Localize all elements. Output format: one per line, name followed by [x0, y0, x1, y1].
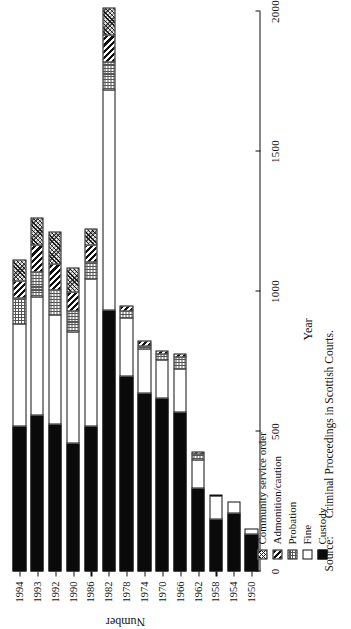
category-label-1958: 1958 — [210, 581, 221, 602]
bar-segment-cust — [227, 512, 240, 571]
category-label-1994: 1994 — [13, 581, 24, 602]
category-label-1954: 1954 — [228, 581, 239, 602]
chart-legend: Community service orderAdmonition/cautio… — [255, 432, 330, 559]
legend-swatch-dotted-grid — [287, 549, 297, 559]
bar-segment-adm — [119, 305, 132, 311]
bar-segment-prob — [84, 261, 97, 279]
category-label-1990: 1990 — [67, 581, 78, 602]
bar-segment-fine — [30, 296, 43, 415]
bar-segment-prob — [173, 356, 186, 369]
category-tick — [19, 571, 20, 576]
legend-item-fine: Fine — [300, 432, 314, 559]
bar-1966[interactable] — [173, 354, 186, 571]
bar-1978[interactable] — [119, 306, 132, 571]
bar-segment-fine — [209, 495, 222, 519]
category-tick — [37, 571, 38, 576]
category-tick — [198, 571, 199, 576]
bar-segment-adm — [84, 244, 97, 262]
legend-label: Community service order — [255, 432, 269, 544]
bar-segment-fine — [66, 331, 79, 443]
category-tick — [233, 571, 234, 576]
category-label-1966: 1966 — [174, 581, 185, 602]
bar-segment-fine — [84, 278, 97, 426]
bar-segment-cust — [191, 487, 204, 571]
bar-segment-fine — [48, 314, 61, 423]
bar-segment-cso — [102, 7, 115, 35]
value-tick — [255, 430, 260, 431]
bar-segment-adm — [102, 34, 115, 62]
bar-segment-adm — [191, 451, 204, 454]
bar-segment-cust — [48, 423, 61, 571]
bar-segment-fine — [173, 368, 186, 413]
bar-segment-fine — [137, 348, 150, 393]
bar-segment-adm — [48, 263, 61, 290]
bar-segment-prob — [209, 494, 222, 496]
bar-1990[interactable] — [66, 268, 79, 571]
bar-segment-prob — [102, 61, 115, 90]
bar-segment-cust — [12, 425, 25, 571]
bar-segment-cust — [84, 425, 97, 571]
bar-segment-fine — [119, 317, 132, 376]
bar-1986[interactable] — [84, 229, 97, 571]
bar-segment-cust — [173, 411, 186, 571]
bar-1962[interactable] — [191, 452, 204, 571]
bar-segment-cust — [102, 309, 115, 571]
bar-segment-prob — [30, 271, 43, 298]
bar-1992[interactable] — [48, 232, 61, 571]
bar-segment-fine — [102, 89, 115, 310]
bar-segment-cust — [209, 518, 222, 571]
legend-label: Probation — [285, 501, 299, 544]
bar-segment-fine — [227, 501, 240, 514]
value-tick-label: 1000 — [268, 280, 280, 303]
y-axis-title: Number — [105, 614, 144, 629]
bar-1970[interactable] — [155, 351, 168, 571]
category-label-1993: 1993 — [31, 581, 42, 602]
category-tick — [126, 571, 127, 576]
category-label-1992: 1992 — [49, 581, 60, 602]
bar-segment-prob — [66, 310, 79, 332]
bar-segment-adm — [155, 350, 168, 354]
bar-1993[interactable] — [30, 218, 43, 571]
value-tick — [255, 290, 260, 291]
bar-segment-cso — [84, 228, 97, 245]
category-label-1970: 1970 — [156, 581, 167, 602]
bar-segment-adm — [137, 340, 150, 346]
legend-label: Admonition/caution — [270, 455, 284, 544]
bar-segment-adm — [173, 353, 186, 357]
x-axis-title: Year — [300, 318, 315, 340]
legend-swatch-diagonal-stripe — [272, 549, 282, 559]
bar-segment-adm — [66, 291, 79, 311]
bar-chart-plot: 0500100015002000 19501954195819621966197… — [10, 11, 260, 571]
bar-1958[interactable] — [209, 495, 222, 571]
bar-segment-fine — [191, 459, 204, 488]
legend-item-adm: Admonition/caution — [270, 432, 284, 559]
category-tick — [162, 571, 163, 576]
value-tick-label: 1500 — [268, 140, 280, 163]
category-tick — [215, 571, 216, 576]
bar-1994[interactable] — [12, 260, 25, 571]
bar-segment-adm — [30, 244, 43, 272]
bar-1974[interactable] — [137, 341, 150, 571]
bar-segment-adm — [12, 280, 25, 298]
category-tick — [90, 571, 91, 576]
bar-segment-cso — [66, 267, 79, 292]
value-tick-label: 2000 — [268, 0, 280, 22]
bar-segment-fine — [155, 359, 168, 398]
category-tick — [144, 571, 145, 576]
bar-segment-cust — [66, 442, 79, 571]
category-tick — [108, 571, 109, 576]
category-label-1974: 1974 — [138, 581, 149, 602]
value-tick — [255, 10, 260, 11]
value-tick-label: 0 — [268, 568, 280, 574]
bar-segment-cust — [30, 414, 43, 571]
bar-segment-fine — [12, 323, 25, 427]
category-label-1982: 1982 — [103, 581, 114, 602]
source-note: Source:Criminal Proceedings in Scottish … — [322, 330, 334, 571]
source-label: Source: — [322, 536, 334, 571]
bar-1954[interactable] — [227, 502, 240, 571]
bar-1982[interactable] — [102, 8, 115, 571]
bar-segment-cust — [119, 375, 132, 571]
category-tick — [73, 571, 74, 576]
bar-segment-prob — [12, 297, 25, 324]
bar-segment-cso — [12, 259, 25, 281]
